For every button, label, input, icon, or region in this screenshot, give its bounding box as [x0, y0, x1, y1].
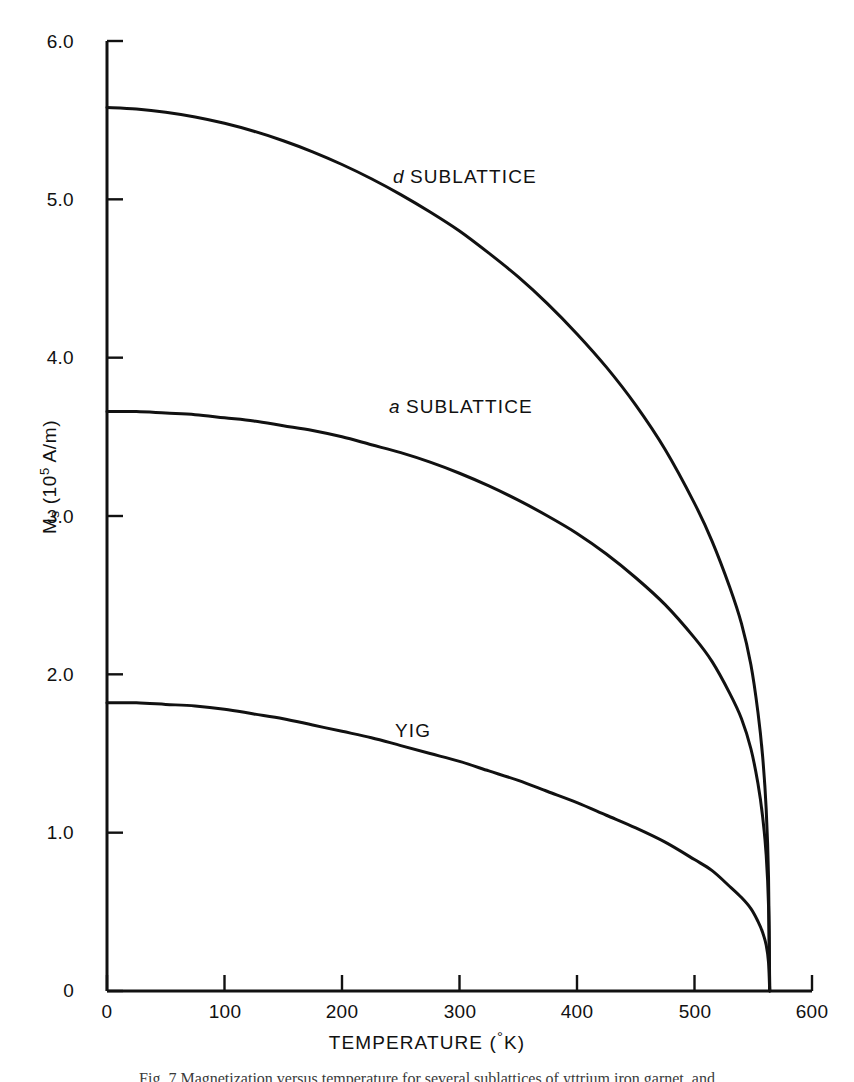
y-axis-title-container: Ms (105 A/m) [39, 277, 61, 677]
curve-label-a-sublattice: a SUBLATTICE [389, 396, 533, 418]
x-tick-label: 200 [312, 1001, 372, 1023]
curve-label-yig: YIG [395, 720, 431, 742]
y-tick-label: 0 [14, 980, 74, 1002]
x-tick-label: 500 [665, 1001, 725, 1023]
x-tick-label: 100 [195, 1001, 255, 1023]
x-tick-label: 600 [782, 1001, 842, 1023]
series-curve-a-sublattice [107, 411, 770, 991]
x-tick-label: 300 [430, 1001, 490, 1023]
y-tick-label: 1.0 [14, 822, 74, 844]
y-tick-label: 5.0 [14, 189, 74, 211]
curve-label-d-sublattice: d SUBLATTICE [393, 166, 537, 188]
x-tick-label: 400 [547, 1001, 607, 1023]
series-curve-yig [107, 703, 770, 991]
y-tick-label: 6.0 [14, 31, 74, 53]
series-curve-d-sublattice [107, 108, 770, 992]
x-tick-label: 0 [77, 1001, 137, 1023]
y-axis-title: Ms (105 A/m) [39, 420, 60, 534]
x-axis-title: TEMPERATURE (°K) [0, 1032, 854, 1054]
figure-magnetization-vs-temperature: 6.0 5.0 4.0 3.0 2.0 1.0 0 0 100 200 300 … [0, 0, 854, 1082]
figure-caption: Fig. 7 Magnetization versus temperature … [0, 1070, 854, 1082]
chart-plot-area [0, 0, 854, 1082]
